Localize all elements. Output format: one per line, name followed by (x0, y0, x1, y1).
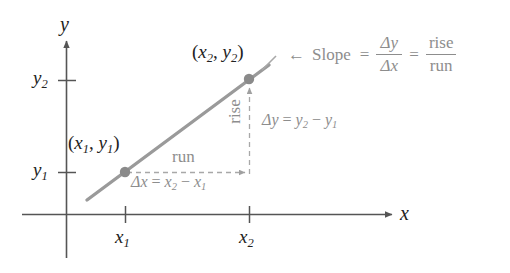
slope-equals-2: = (409, 45, 419, 65)
pt2-y-base: y (223, 41, 231, 62)
x2-subscript: 2 (247, 236, 253, 250)
dy-term2-subscript: 1 (332, 119, 337, 130)
point-2-coordinate-label: (x2, y2) (192, 42, 244, 65)
delta-y-equation: Δy = y2 − y1 (262, 112, 337, 131)
dy-minus: − (308, 111, 325, 128)
left-arrow-icon: ← (288, 46, 305, 63)
fraction-1-numerator: Δy (378, 33, 402, 54)
dx-term2-subscript: 1 (201, 181, 206, 192)
point-marker-1 (120, 167, 130, 177)
y-tick-label-y2: y2 (33, 68, 48, 91)
fraction-delta-y-over-delta-x: Δy Δx (376, 33, 402, 76)
pt1-x-base: x (74, 132, 82, 153)
x1-subscript: 1 (123, 236, 129, 250)
point-1-coordinate-label: (x1, y1) (68, 133, 120, 156)
y2-subscript: 2 (41, 77, 47, 91)
pt2-x-base: x (198, 41, 206, 62)
y-tick-label-y1: y1 (33, 160, 48, 183)
slope-diagram-figure: y x y2 y1 x1 x2 (x1, y1) (x2, y2) run ri… (0, 0, 510, 273)
dx-equals: = (148, 173, 165, 190)
point-marker-2 (244, 74, 254, 84)
fraction-2-denominator: run (427, 55, 456, 76)
dy-symbol: Δy (262, 111, 279, 128)
slope-word: Slope (312, 45, 351, 65)
dy-term2-base: y (325, 111, 332, 128)
y1-subscript: 1 (41, 169, 47, 183)
pt1-y-base: y (99, 132, 107, 153)
pt1-comma: , (89, 132, 99, 153)
run-label: run (172, 148, 195, 165)
pt1-close-paren: ) (113, 132, 119, 153)
rise-label: rise (226, 99, 243, 124)
fraction-rise-over-run: rise run (426, 33, 457, 76)
x-tick-label-x2: x2 (239, 227, 254, 250)
fraction-2-numerator: rise (426, 33, 457, 54)
dx-minus: − (177, 173, 194, 190)
slope-pointer-tick (262, 56, 276, 70)
pt2-comma: , (213, 41, 223, 62)
dy-term1-base: y (296, 111, 303, 128)
slope-equals-1: = (360, 45, 370, 65)
pt2-close-paren: ) (237, 41, 243, 62)
dx-term2-base: x (194, 173, 201, 190)
dx-term1-base: x (165, 173, 172, 190)
y-axis-label: y (60, 14, 69, 34)
fraction-1-denominator: Δx (378, 55, 402, 76)
delta-x-equation: Δx = x2 − x1 (131, 174, 206, 193)
slope-formula-annotation: ← Slope = Δy Δx = rise run (288, 33, 458, 76)
dy-equals: = (279, 111, 296, 128)
x-tick-label-x1: x1 (115, 227, 130, 250)
dx-symbol: Δx (131, 173, 148, 190)
x-axis-label: x (400, 203, 409, 223)
